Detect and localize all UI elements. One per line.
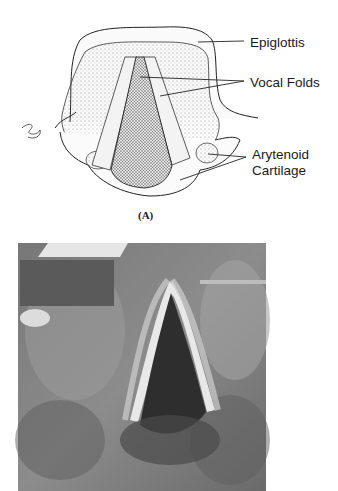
label-arytenoid: Arytenoid xyxy=(252,147,309,162)
larynx-illustration xyxy=(0,0,338,491)
caption-a: (A) xyxy=(138,209,153,221)
label-epiglottis: Epiglottis xyxy=(250,35,305,50)
label-vocal-folds: Vocal Folds xyxy=(250,75,320,90)
squiggle xyxy=(22,124,40,138)
arytenoid-cartilage-right xyxy=(196,143,218,163)
label-cartilage: Cartilage xyxy=(252,163,306,178)
laryngoscopy-photo xyxy=(15,243,270,491)
figure: Epiglottis Vocal Folds Arytenoid Cartila… xyxy=(0,0,338,491)
